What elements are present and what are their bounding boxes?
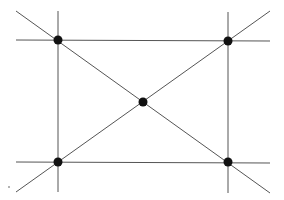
stray-mark bbox=[8, 186, 10, 188]
point-bottom-right bbox=[224, 158, 233, 167]
point-top-right bbox=[224, 37, 233, 46]
point-center bbox=[139, 98, 148, 107]
diagram-canvas bbox=[0, 0, 284, 200]
point-bottom-left bbox=[54, 158, 63, 167]
point-top-left bbox=[54, 36, 63, 45]
